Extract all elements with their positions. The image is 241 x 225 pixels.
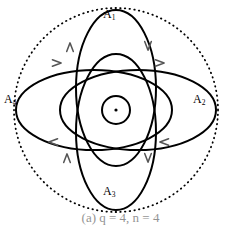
- arrow-bottom-horizontal-left-icon: [49, 139, 58, 146]
- vertex-label-a3-base: A: [103, 184, 112, 198]
- vertex-label-a4-base: A: [4, 92, 13, 106]
- ellipse-vertical-lower: [76, 54, 156, 210]
- figure-caption: (a) q = 4, n = 4: [0, 210, 241, 225]
- rosette-diagram: [0, 0, 241, 225]
- arrow-right-vertical-lower-icon: [145, 153, 152, 162]
- vertex-label-a3-sub: 3: [112, 190, 116, 199]
- ellipse-vertical-upper: [76, 10, 156, 166]
- vertex-label-a4: A4: [4, 93, 16, 105]
- vertex-label-a2: A2: [193, 93, 205, 105]
- vertex-label-a1-sub: 1: [112, 13, 116, 22]
- arrow-left-vertical-upper-icon: [67, 43, 74, 52]
- vertex-label-a3: A3: [103, 185, 115, 197]
- vertex-label-a4-sub: 4: [13, 98, 17, 107]
- ellipse-horizontal-right: [60, 70, 216, 150]
- vertex-label-a2-sub: 2: [202, 98, 206, 107]
- arrow-top-horizontal-right-icon: [155, 60, 164, 67]
- vertex-label-a2-base: A: [193, 92, 202, 106]
- vertex-label-a1: A1: [103, 8, 115, 20]
- arrow-bottom-horizontal-right-icon: [160, 139, 169, 146]
- vertex-label-a1-base: A: [103, 7, 112, 21]
- arrow-left-vertical-lower-icon: [64, 154, 71, 163]
- center-dot: [114, 108, 117, 111]
- figure-container: A1 A2 A3 A4 (a) q = 4, n = 4: [0, 0, 241, 225]
- arrow-top-horizontal-left-icon: [52, 60, 61, 67]
- ellipse-horizontal-left: [16, 70, 172, 150]
